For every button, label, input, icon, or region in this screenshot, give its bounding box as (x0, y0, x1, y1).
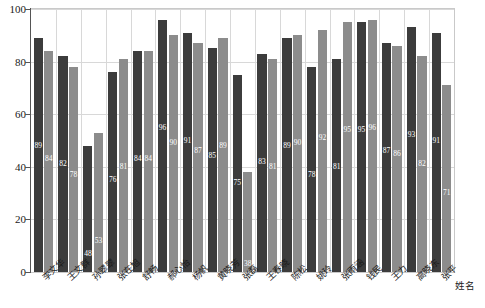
bar[interactable] (293, 35, 302, 272)
bar-value-label: 84 (141, 155, 155, 163)
x-axis-labels: 李文华王文群孙翠翠张在旭舒畅郝心怡杨帆黄晓芳张磊王春晓陈松姚玲张雨涵钱民王力高晓… (31, 274, 456, 308)
bar[interactable] (94, 133, 103, 272)
bar-value-label: 53 (92, 237, 106, 245)
y-axis-tick-mark (25, 114, 30, 115)
bar-value-label: 90 (291, 139, 305, 147)
bar-value-label: 86 (390, 150, 404, 158)
y-axis-tick-label: 80 (0, 57, 26, 67)
y-axis-tick-label: 20 (0, 214, 26, 224)
bar-value-label: 81 (330, 163, 344, 171)
bar[interactable] (343, 22, 352, 272)
bar-chart: 020406080100 898482784853768184849690918… (0, 0, 485, 308)
y-axis-tick-mark (25, 219, 30, 220)
y-axis-tick-label: 100 (0, 4, 26, 14)
bar-value-label: 89 (216, 142, 230, 150)
bar-value-label: 71 (440, 189, 454, 197)
bar-value-label: 93 (404, 131, 418, 139)
bar-value-label: 90 (166, 139, 180, 147)
y-axis-tick-mark (25, 167, 30, 168)
y-axis-tick-mark (25, 9, 30, 10)
bar[interactable] (233, 75, 242, 272)
x-axis-title: 姓名 (455, 278, 475, 292)
bar[interactable] (392, 46, 401, 272)
bar-value-label: 76 (106, 176, 120, 184)
bar[interactable] (169, 35, 178, 272)
bar[interactable] (368, 20, 377, 272)
y-axis-tick-label: 40 (0, 162, 26, 172)
y-axis-tick-mark (25, 272, 30, 273)
bar-value-label: 82 (415, 160, 429, 168)
bar-value-label: 82 (56, 160, 70, 168)
bar-value-label: 91 (429, 137, 443, 145)
bar[interactable] (442, 85, 451, 272)
bar-value-label: 81 (116, 163, 130, 171)
bar-value-label: 87 (191, 147, 205, 155)
bar[interactable] (108, 72, 117, 272)
bar-value-label: 78 (67, 171, 81, 179)
bar[interactable] (243, 172, 252, 272)
bar-value-label: 96 (365, 124, 379, 132)
bar-value-label: 85 (205, 152, 219, 160)
bar-value-label: 84 (42, 155, 56, 163)
bar-value-label: 92 (315, 134, 329, 142)
bar[interactable] (318, 30, 327, 272)
bar-value-label: 75 (230, 179, 244, 187)
bar-value-label: 95 (340, 126, 354, 134)
bars-layer: 8984827848537681848496909187858975388381… (31, 9, 454, 272)
bar-value-label: 96 (156, 124, 170, 132)
bar[interactable] (193, 43, 202, 272)
bar-value-label: 91 (180, 137, 194, 145)
y-axis-tick-label: 60 (0, 109, 26, 119)
y-axis-tick-mark (25, 62, 30, 63)
bar-value-label: 78 (305, 171, 319, 179)
bar[interactable] (432, 33, 441, 272)
bar[interactable] (282, 38, 291, 272)
bar[interactable] (407, 27, 416, 272)
bar[interactable] (357, 22, 366, 272)
bar-value-label: 89 (31, 142, 45, 150)
bar[interactable] (218, 38, 227, 272)
y-axis-tick-label: 0 (0, 267, 26, 277)
bar-value-label: 81 (266, 163, 280, 171)
